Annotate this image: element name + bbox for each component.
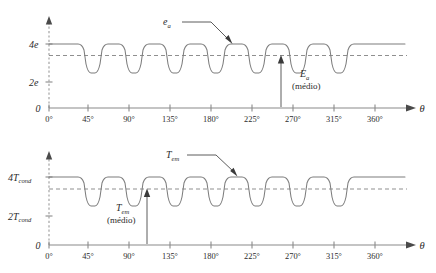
bottom-ytick-label-4: 4Tcond	[8, 172, 32, 185]
top-y-axis-arrowhead	[46, 16, 52, 25]
top-x-axis-arrowhead	[406, 104, 416, 111]
top-waveform-ea	[49, 44, 405, 73]
bottom-y-axis-arrowhead	[46, 151, 52, 160]
bottom-x-axis-arrowhead	[406, 241, 416, 248]
top-xaxis-title: θ	[419, 103, 424, 114]
top-xtick-180: 180°	[203, 115, 219, 124]
bottom-average-pointer	[144, 189, 150, 245]
bottom-xtick-90: 90°	[123, 252, 135, 261]
top-ytick-label-0: 0	[36, 103, 41, 114]
top-callout-ea	[182, 22, 233, 44]
top-xtick-135: 135°	[162, 115, 178, 124]
top-xtick-45: 45°	[82, 115, 94, 124]
bottom-xtick-270: 270°	[285, 252, 301, 261]
top-ytick-label-2: 2e	[29, 77, 39, 88]
chart-bottom: Tem Tem (médio) 4Tcond 2Tcond 0 0° 45° 9…	[8, 149, 425, 261]
bottom-xtick-180: 180°	[203, 252, 219, 261]
top-average-pointer	[278, 55, 284, 107]
bottom-xtick-45: 45°	[82, 252, 94, 261]
bottom-average-label: Tem	[116, 202, 129, 215]
top-xtick-270: 270°	[285, 115, 301, 124]
bottom-waveform-tem	[49, 177, 405, 206]
top-x-tick-labels: 0° 45° 90° 135° 180° 225° 270° 315° 360°	[45, 115, 383, 124]
bottom-xtick-360: 360°	[367, 252, 383, 261]
chart-top: ea Ea (médio) 4e 2e 0 0° 45° 90° 135° 18…	[29, 16, 425, 124]
top-series-label: ea	[163, 16, 171, 29]
top-xtick-225: 225°	[244, 115, 260, 124]
top-average-label-second: (médio)	[292, 81, 321, 91]
top-xtick-315: 315°	[326, 115, 342, 124]
figure-container: ea Ea (médio) 4e 2e 0 0° 45° 90° 135° 18…	[0, 0, 436, 273]
top-xtick-360: 360°	[367, 115, 383, 124]
top-average-label: Ea	[299, 68, 310, 81]
bottom-xtick-225: 225°	[244, 252, 260, 261]
bottom-average-label-second: (médio)	[107, 215, 136, 225]
top-ytick-label-4: 4e	[29, 39, 39, 50]
top-xtick-0: 0°	[45, 115, 53, 124]
bottom-xaxis-title: θ	[419, 240, 424, 251]
bottom-ytick-label-2: 2Tcond	[8, 211, 32, 224]
bottom-callout-tem	[187, 155, 238, 177]
bottom-xtick-315: 315°	[326, 252, 342, 261]
waveform-figure: ea Ea (médio) 4e 2e 0 0° 45° 90° 135° 18…	[0, 0, 436, 273]
bottom-ytick-label-0: 0	[36, 240, 41, 251]
top-xtick-90: 90°	[123, 115, 135, 124]
bottom-xtick-0: 0°	[45, 252, 53, 261]
bottom-xtick-135: 135°	[162, 252, 178, 261]
bottom-series-label: Tem	[166, 149, 179, 162]
bottom-x-tick-labels: 0° 45° 90° 135° 180° 225° 270° 315° 360°	[45, 252, 383, 261]
